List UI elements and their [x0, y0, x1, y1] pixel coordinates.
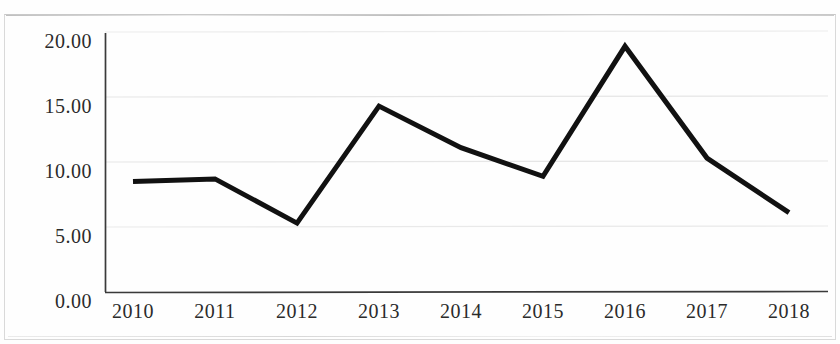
x-tick-label-2011: 2011 [175, 300, 255, 322]
x-tick-label-2017: 2017 [667, 300, 747, 322]
x-tick-label-2010: 2010 [93, 300, 173, 322]
x-tick-label-2016: 2016 [585, 300, 665, 322]
chart-container: 20.00 15.00 10.00 5.00 0.00 2010 2011 20… [0, 0, 840, 344]
x-tick-label-2014: 2014 [421, 300, 501, 322]
x-tick-label-2015: 2015 [503, 300, 583, 322]
x-tick-label-2012: 2012 [257, 300, 337, 322]
x-tick-label-2013: 2013 [339, 300, 419, 322]
x-axis-tick-labels: 2010 2011 2012 2013 2014 2015 2016 2017 … [0, 0, 840, 344]
x-tick-label-2018: 2018 [749, 300, 829, 322]
